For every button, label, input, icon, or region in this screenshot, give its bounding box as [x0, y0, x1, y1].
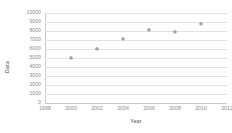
- x-axis-tick-labels: 19982000200220042006200820102012: [45, 106, 227, 116]
- data-point: [95, 47, 100, 52]
- x-tick-label: 1998: [39, 106, 51, 111]
- y-tick-label: 3000: [29, 73, 41, 78]
- y-axis-title: Data: [0, 0, 14, 133]
- scatter-chart: Data 01000200030004000500060007000800090…: [0, 0, 232, 133]
- data-point: [147, 27, 152, 32]
- y-axis-title-label: Data: [4, 61, 10, 73]
- x-tick-label: 2006: [143, 106, 155, 111]
- y-tick-label: 9000: [29, 19, 41, 24]
- data-points-layer: [45, 13, 227, 103]
- x-tick-label: 2010: [195, 106, 207, 111]
- y-tick-label: 1000: [29, 91, 41, 96]
- x-tick-label: 2012: [221, 106, 232, 111]
- y-tick-label: 4000: [29, 64, 41, 69]
- gridline: [45, 103, 227, 104]
- data-point: [121, 36, 126, 41]
- y-tick-label: 7000: [29, 37, 41, 42]
- y-tick-label: 5000: [29, 55, 41, 60]
- y-tick-label: 6000: [29, 46, 41, 51]
- y-axis-tick-labels: 0100020003000400050006000700080009000100…: [14, 13, 43, 103]
- x-tick-label: 2004: [117, 106, 129, 111]
- data-point: [199, 22, 204, 27]
- data-point: [69, 56, 74, 61]
- x-tick-label: 2008: [169, 106, 181, 111]
- y-tick-label: 2000: [29, 82, 41, 87]
- plot-area: [45, 13, 227, 103]
- y-tick-label: 8000: [29, 28, 41, 33]
- data-point: [173, 30, 178, 35]
- x-tick-label: 2002: [91, 106, 103, 111]
- x-axis-title: Year: [45, 118, 227, 124]
- y-tick-label: 10000: [27, 10, 41, 15]
- x-tick-label: 2000: [65, 106, 77, 111]
